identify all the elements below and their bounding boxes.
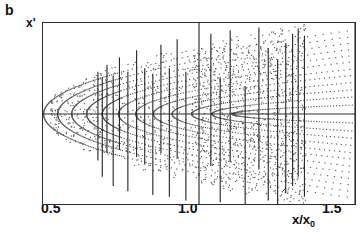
data-dot (296, 125, 297, 126)
data-dot (261, 129, 262, 130)
data-dot (334, 136, 335, 137)
data-dot (79, 92, 80, 93)
data-dot (197, 53, 198, 54)
data-dot (229, 167, 230, 168)
data-dot (331, 194, 332, 195)
data-dot (213, 64, 214, 65)
data-dot (333, 129, 334, 130)
data-dot (88, 82, 89, 83)
data-dot (150, 152, 151, 153)
data-dot (209, 69, 210, 70)
data-dot (294, 127, 295, 128)
data-dot (179, 112, 180, 113)
data-dot (213, 92, 214, 93)
data-dot (270, 62, 271, 63)
data-dot (183, 92, 184, 93)
data-dot (211, 182, 212, 183)
data-dot (264, 97, 265, 98)
data-dot (228, 78, 229, 79)
data-dot (344, 130, 345, 131)
data-dot (104, 152, 105, 153)
data-dot (286, 68, 287, 69)
data-dot (257, 65, 258, 66)
data-dot (109, 81, 110, 82)
data-dot (223, 158, 224, 159)
data-dot (99, 134, 100, 135)
data-dot (249, 79, 250, 80)
data-dot (78, 87, 79, 88)
data-dot (300, 80, 301, 81)
data-dot (163, 62, 164, 63)
data-dot (348, 178, 349, 179)
data-dot (117, 85, 118, 86)
data-dot (274, 144, 275, 145)
data-dot (250, 179, 251, 180)
data-dot (320, 53, 321, 54)
data-dot (250, 106, 251, 107)
data-dot (301, 87, 302, 88)
data-dot (109, 107, 110, 108)
data-dot (157, 141, 158, 142)
data-dot (255, 85, 256, 86)
data-dot (179, 87, 180, 88)
data-dot (318, 135, 319, 136)
data-dot (148, 165, 149, 166)
data-dot (305, 106, 306, 107)
data-dot (170, 129, 171, 130)
data-dot (194, 87, 195, 88)
data-dot (247, 181, 248, 182)
data-dot (224, 119, 225, 120)
data-dot (174, 126, 175, 127)
data-dot (124, 103, 125, 104)
data-dot (226, 65, 227, 66)
data-dot (294, 153, 295, 154)
data-dot (187, 123, 188, 124)
data-dot (216, 129, 217, 130)
data-dot (162, 62, 163, 63)
data-dot (109, 87, 110, 88)
data-dot (55, 110, 56, 111)
data-dot (256, 44, 257, 45)
data-dot (160, 159, 161, 160)
data-dot (243, 127, 244, 128)
data-dot (287, 122, 288, 123)
data-dot (287, 174, 288, 175)
data-dot (275, 185, 276, 186)
data-dot (66, 119, 67, 120)
data-dot (246, 47, 247, 48)
data-dot (204, 88, 205, 89)
data-dot (348, 55, 349, 56)
data-dot (294, 161, 295, 162)
data-dot (232, 136, 233, 137)
data-dot (340, 183, 341, 184)
data-dot (261, 103, 262, 104)
data-dot (189, 85, 190, 86)
data-dot (224, 130, 225, 131)
data-dot (116, 135, 117, 136)
data-dot (94, 127, 95, 128)
data-dot (302, 184, 303, 185)
data-dot (117, 95, 118, 96)
data-dot (153, 83, 154, 84)
data-dot (205, 121, 206, 122)
data-dot (301, 130, 302, 131)
data-dot (148, 86, 149, 87)
data-dot (240, 153, 241, 154)
data-dot (291, 132, 292, 133)
data-dot (206, 95, 207, 96)
data-dot (204, 139, 205, 140)
data-dot (65, 91, 66, 92)
data-dot (272, 78, 273, 79)
data-dot (274, 119, 275, 120)
data-dot (154, 127, 155, 128)
data-dot (203, 101, 204, 102)
data-dot (242, 123, 243, 124)
data-dot (170, 132, 171, 133)
data-dot (208, 58, 209, 59)
data-dot (194, 56, 195, 57)
data-dot (231, 112, 232, 113)
data-dot (213, 74, 214, 75)
data-dot (262, 55, 263, 56)
data-dot (235, 145, 236, 146)
data-dot (62, 100, 63, 101)
